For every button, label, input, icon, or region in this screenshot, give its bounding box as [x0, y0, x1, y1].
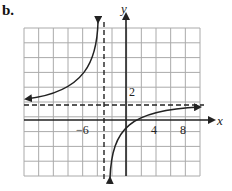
- y-tick-2: 2: [129, 85, 135, 99]
- curve-right-branch: [110, 107, 200, 178]
- x-tick-4: 4: [151, 123, 157, 137]
- x-tick-8: 8: [180, 123, 186, 137]
- graph: y x 2 −6 4 8: [0, 0, 232, 191]
- grid: [24, 28, 200, 176]
- x-tick-neg6: −6: [76, 123, 89, 137]
- y-axis-label: y: [119, 1, 127, 16]
- x-axis-label: x: [216, 113, 223, 128]
